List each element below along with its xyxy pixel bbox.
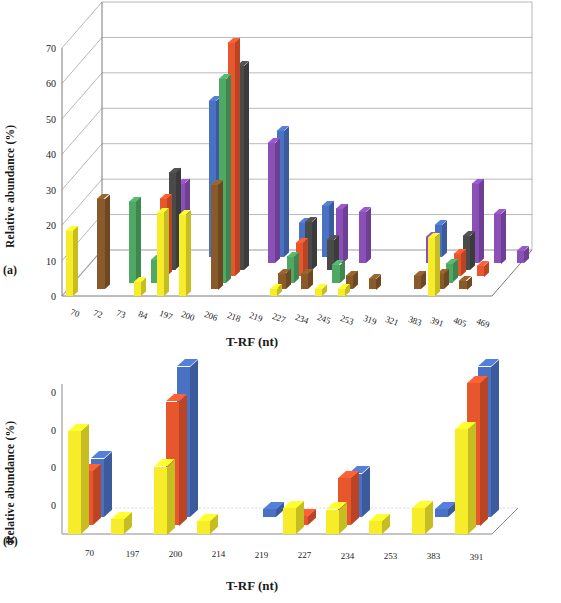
bar-227-s1 <box>270 289 277 296</box>
bar-side-face <box>164 208 169 296</box>
bar-front-face <box>134 282 141 296</box>
bar-front-face <box>68 431 81 534</box>
bar-200-s1 <box>154 467 167 535</box>
bar-245-s6 <box>359 212 366 263</box>
bar-197-s1 <box>111 519 124 534</box>
bar-side-face <box>136 197 141 283</box>
bar-side-face <box>479 179 484 263</box>
bar-383-s1 <box>412 508 425 534</box>
y-tick-label: 40 <box>30 149 56 160</box>
bar-319-s2 <box>369 279 376 290</box>
bar-73-s3 <box>129 201 136 282</box>
bar-front-face <box>477 266 484 277</box>
y-tick-label: 10 <box>30 255 56 266</box>
gridline <box>62 108 532 154</box>
bar-side-face <box>235 38 240 276</box>
bar-front-face <box>455 429 468 534</box>
bar-side-face <box>93 464 101 526</box>
bar-side-face <box>244 61 249 269</box>
bar-234-s1 <box>326 510 339 534</box>
bar-200-s1 <box>179 215 186 296</box>
panel-a: (a) Relative abundance (%) T-RF (nt) 010… <box>0 0 561 362</box>
bar-front-face <box>129 201 136 282</box>
y-tick-label: 0 <box>30 424 56 435</box>
x-tick-label: 219 <box>255 550 269 560</box>
bar-70-s1 <box>66 230 73 296</box>
bar-front-face <box>338 289 345 296</box>
bar-side-face <box>501 209 506 263</box>
bar-253-s1 <box>338 289 345 296</box>
bar-front-face <box>412 508 425 534</box>
x-tick-label: 197 <box>126 549 140 559</box>
panel-b: (b) Relative abundance (%) T-RF (nt) 000… <box>0 362 561 603</box>
bar-front-face <box>283 508 296 534</box>
x-tick-label: 70 <box>85 548 94 558</box>
bar-227-s1 <box>283 508 296 534</box>
bar-405-s2 <box>459 281 466 290</box>
bar-side-face <box>351 471 359 525</box>
x-tick-label: 227 <box>298 550 312 560</box>
x-tick-label: 383 <box>427 551 441 561</box>
x-tick-label: 253 <box>384 551 398 561</box>
gridline <box>62 144 532 190</box>
x-tick-label: 214 <box>212 549 226 559</box>
bar-side-face <box>294 252 299 283</box>
bar-side-face <box>312 217 317 269</box>
bar-214-s1 <box>197 521 210 534</box>
bar-219-s3 <box>263 509 276 517</box>
bar-side-face <box>81 424 89 534</box>
bar-front-face <box>332 265 339 283</box>
bar-side-face <box>186 210 191 296</box>
bar-405-s6 <box>494 214 501 264</box>
bar-front-face <box>435 509 448 517</box>
bar-side-face <box>362 466 370 516</box>
y-tick-label: 0 <box>30 291 56 302</box>
bar-245-s1 <box>315 289 322 296</box>
bar-side-face <box>104 451 112 516</box>
bar-391-s1 <box>455 429 468 534</box>
y-tick-label: 0 <box>30 499 56 510</box>
bar-side-face <box>468 422 476 534</box>
y-tick-label: 0 <box>30 387 56 398</box>
bar-side-face <box>366 207 371 263</box>
bar-197-s1 <box>157 213 164 296</box>
bar-side-face <box>470 231 475 269</box>
bar-side-face <box>284 126 289 256</box>
gridline <box>62 73 532 119</box>
x-tick-label: 391 <box>470 552 484 562</box>
bar-front-face <box>197 521 210 534</box>
y-tick-label: 50 <box>30 113 56 124</box>
gridline <box>62 2 532 48</box>
bar-206-s2 <box>211 185 218 290</box>
bar-front-face <box>369 521 382 534</box>
x-tick-label: 234 <box>341 551 355 561</box>
bar-383-s3 <box>435 509 448 517</box>
bar-front-face <box>154 467 167 535</box>
bar-391-s1 <box>428 238 435 296</box>
bar-front-face <box>270 289 277 296</box>
bar-405-s4 <box>477 266 484 277</box>
bar-side-face <box>73 226 78 296</box>
bar-side-face <box>218 180 223 289</box>
bar-side-face <box>343 204 348 264</box>
bar-side-face <box>480 376 488 526</box>
y-tick-label: 30 <box>30 184 56 195</box>
bar-72-s2 <box>97 199 104 289</box>
bar-side-face <box>442 220 447 257</box>
bar-383-s2 <box>414 275 421 289</box>
bar-234-s2 <box>301 273 308 289</box>
bar-side-face <box>167 459 175 534</box>
bar-218-s6 <box>268 143 275 263</box>
bar-side-face <box>179 394 187 525</box>
bar-253-s1 <box>369 521 382 534</box>
bar-front-face <box>157 213 164 296</box>
bar-front-face <box>459 281 466 290</box>
bar-side-face <box>226 74 231 282</box>
bar-front-face <box>359 212 366 263</box>
bar-front-face <box>97 199 104 289</box>
bar-side-face <box>190 359 198 516</box>
y-tick-label: 0 <box>30 462 56 473</box>
bar-70-s1 <box>68 431 81 534</box>
bar-469-s6 <box>517 251 524 263</box>
y-tick-label: 70 <box>30 43 56 54</box>
